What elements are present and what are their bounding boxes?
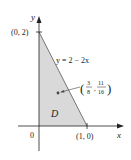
y-axis-arrow-icon [37, 16, 42, 23]
x-axis-label: x [116, 130, 121, 140]
y-denominator: 16 [98, 89, 104, 95]
diagram-canvas: y x 0 (0, 2) (1, 0) y = 2 − 2x D ( 3 8 ,… [0, 0, 131, 160]
x-axis-arrow-icon [117, 124, 124, 129]
region-label: D [50, 108, 59, 119]
y-numerator: 11 [98, 80, 104, 86]
vertex-top-label: (0, 2) [11, 28, 29, 37]
svg-text:,: , [94, 85, 96, 93]
x-denominator: 8 [87, 89, 90, 95]
vertex-right-label: (1, 0) [76, 132, 94, 141]
x-numerator: 3 [87, 80, 90, 86]
y-axis-label: y [30, 12, 35, 22]
centroid-label: ( 3 8 , 11 16 ) [80, 80, 111, 96]
origin-label: 0 [30, 131, 34, 140]
svg-text:): ) [107, 81, 111, 96]
centroid-point [57, 92, 60, 95]
svg-text:(: ( [80, 81, 84, 96]
line-equation-label: y = 2 − 2x [56, 56, 89, 65]
